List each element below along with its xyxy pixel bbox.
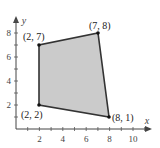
y-tick-label: 4 <box>7 76 12 86</box>
y-axis-label: y <box>21 15 27 26</box>
x-tick-label: 8 <box>107 134 112 144</box>
x-axis-arrow-icon <box>145 126 152 132</box>
y-tick-label: 2 <box>7 100 12 110</box>
y-axis-arrow-icon <box>13 16 19 23</box>
y-tick-label: 8 <box>7 28 12 38</box>
vertex-point <box>96 31 100 35</box>
vertex-point <box>107 115 111 119</box>
x-axis-label: x <box>144 115 150 126</box>
feasible-region <box>39 33 109 117</box>
coordinate-plane: 2 4 6 8 10 2 4 6 8 x y (2, 2) (2, 7) (7,… <box>0 0 160 148</box>
vertex-label: (2, 2) <box>21 109 43 121</box>
y-tick-label: 6 <box>7 52 12 62</box>
vertex-label: (7, 8) <box>89 20 111 32</box>
vertex-point <box>37 43 41 47</box>
vertex-point <box>37 103 41 107</box>
x-tick-label: 4 <box>61 134 66 144</box>
x-tick-label: 10 <box>129 134 139 144</box>
x-tick-label: 2 <box>37 134 42 144</box>
vertex-label: (2, 7) <box>23 31 45 43</box>
vertex-label: (8, 1) <box>112 112 134 124</box>
x-tick-label: 6 <box>84 134 89 144</box>
